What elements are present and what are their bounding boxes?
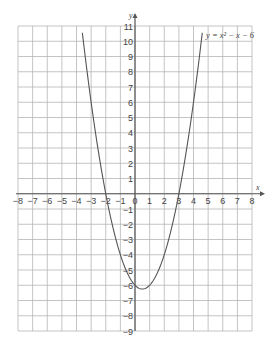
y-tick-label: −7	[123, 296, 133, 306]
x-tick-label: 2	[162, 196, 167, 206]
x-tick-label: 4	[191, 196, 196, 206]
y-tick-label: 3	[128, 144, 133, 154]
x-tick-label: −5	[57, 196, 67, 206]
y-tick-label: −9	[123, 327, 133, 337]
x-tick-label: 0	[132, 196, 137, 206]
y-tick-label: 10	[123, 37, 133, 47]
equation-label: y = x² − x − 6	[205, 30, 255, 40]
x-tick-label: −2	[101, 196, 111, 206]
axes	[16, 13, 265, 331]
x-tick-label: −4	[71, 196, 81, 206]
y-tick-label: −3	[123, 235, 133, 245]
y-tick-label: 1	[128, 174, 133, 184]
x-tick-label: 1	[147, 196, 152, 206]
y-tick-label: 11	[124, 22, 133, 32]
x-tick-label: 6	[220, 196, 225, 206]
y-tick-label: −1	[123, 205, 133, 215]
y-tick-label: 2	[128, 159, 133, 169]
y-tick-label: −8	[123, 311, 133, 321]
y-tick-label: 4	[128, 128, 133, 138]
y-tick-label: 6	[128, 98, 133, 108]
x-tick-label: −6	[42, 196, 52, 206]
parabola-chart: −8−7−6−5−4−3−2−10123456781110987654321−1…	[0, 0, 270, 340]
x-tick-label: −8	[13, 196, 23, 206]
x-axis-label: x	[255, 183, 260, 192]
y-tick-label: −2	[123, 220, 133, 230]
y-tick-label: 7	[128, 83, 133, 93]
x-axis-arrow-icon	[260, 191, 265, 196]
x-tick-label: 8	[249, 196, 254, 206]
x-tick-label: −7	[27, 196, 37, 206]
y-tick-label: 9	[128, 52, 133, 62]
tick-labels: −8−7−6−5−4−3−2−10123456781110987654321−1…	[13, 22, 255, 337]
y-axis-arrow-icon	[133, 13, 138, 18]
x-tick-label: −3	[86, 196, 96, 206]
y-tick-label: −6	[123, 281, 133, 291]
x-tick-label: 7	[235, 196, 240, 206]
y-tick-label: 5	[128, 113, 133, 123]
y-tick-label: 8	[128, 67, 133, 77]
y-axis-label: y	[128, 11, 133, 20]
x-tick-label: 5	[206, 196, 211, 206]
y-tick-label: −4	[123, 250, 133, 260]
parabola-curve	[82, 33, 202, 289]
